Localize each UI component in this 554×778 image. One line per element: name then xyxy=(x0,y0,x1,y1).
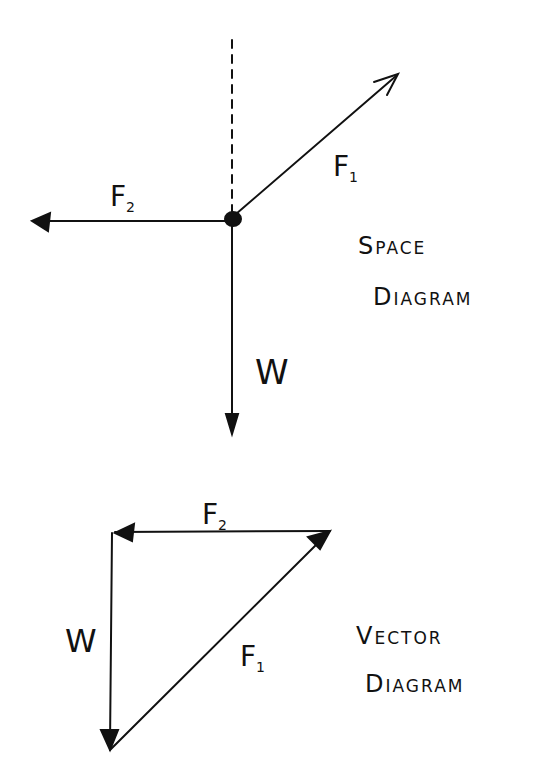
f1-subscript: 1 xyxy=(349,169,358,185)
title-rest: PACE xyxy=(375,238,426,258)
f2-vector-arrowhead-icon xyxy=(115,524,134,541)
f1-arrow-line xyxy=(236,76,396,214)
space-diagram-title-line1: SPACE xyxy=(358,232,426,260)
vector-w-label: W xyxy=(65,622,97,660)
f2-letter: F xyxy=(110,180,126,213)
f1-vector-arrowhead-icon xyxy=(308,531,330,549)
space-diagram xyxy=(32,40,398,434)
vector-diagram-title-line2: DIAGRAM xyxy=(365,670,464,698)
f1-letter: F xyxy=(333,150,349,183)
title-rest: IAGRAM xyxy=(393,289,472,309)
f2-arrowhead-icon xyxy=(32,213,50,231)
w-vector-arrowhead-icon xyxy=(101,730,118,750)
title-rest: IAGRAM xyxy=(385,676,464,696)
f1-vector-line xyxy=(110,533,328,750)
f2-letter: F xyxy=(202,498,218,531)
vector-diagram xyxy=(101,524,330,750)
title-initial: V xyxy=(356,622,374,650)
f1-letter: F xyxy=(240,640,256,673)
f1-subscript: 1 xyxy=(256,659,265,675)
f2-subscript: 2 xyxy=(218,517,227,533)
vector-f1-label: F1 xyxy=(240,640,265,673)
title-initial: D xyxy=(365,670,385,698)
space-diagram-title-line2: DIAGRAM xyxy=(373,283,472,311)
space-f2-label: F2 xyxy=(110,180,135,213)
w-vector-line xyxy=(110,533,112,745)
vector-f2-label: F2 xyxy=(202,498,227,531)
title-initial: S xyxy=(358,232,375,260)
vector-diagram-title-line1: VECTOR xyxy=(356,622,443,650)
title-initial: D xyxy=(373,283,393,311)
particle-node-icon xyxy=(225,212,241,226)
w-arrowhead-icon xyxy=(226,414,238,434)
space-f1-label: F1 xyxy=(333,150,358,183)
title-rest: ECTOR xyxy=(374,628,442,648)
space-w-label: W xyxy=(255,352,289,392)
f2-subscript: 2 xyxy=(126,199,135,215)
